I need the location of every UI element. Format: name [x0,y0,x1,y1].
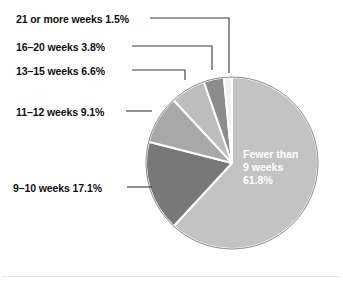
callout-label-9-10-weeks: 9–10 weeks 17.1% [13,182,102,194]
inner-label-line-3: 61.8% [243,174,298,187]
slice-inner-label-fewer-than-9-weeks: Fewer than 9 weeks 61.8% [243,148,298,187]
bottom-divider [2,276,341,277]
callout-label-16-20-weeks: 16–20 weeks 3.8% [16,41,105,53]
callout-label-11-12-weeks: 11–12 weeks 9.1% [16,106,104,118]
callout-label-13-15-weeks: 13–15 weeks 6.6% [16,65,105,77]
pie-chart-figure: 21 or more weeks 1.5% 16–20 weeks 3.8% 1… [0,0,343,282]
inner-label-line-1: Fewer than [243,148,298,161]
inner-label-line-2: 9 weeks [243,161,298,174]
callout-label-21-or-more-weeks: 21 or more weeks 1.5% [16,13,129,25]
